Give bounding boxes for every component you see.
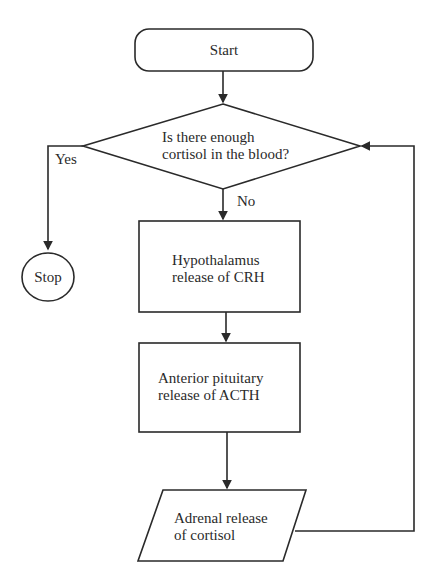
yes-label: Yes xyxy=(55,151,77,168)
step2-text: Anterior pituitary release of ACTH xyxy=(158,370,263,404)
step1-line2: release of CRH xyxy=(172,269,264,286)
step3-text: Adrenal release of cortisol xyxy=(174,510,268,544)
start-label: Start xyxy=(135,42,313,59)
step3-line2: of cortisol xyxy=(174,527,268,544)
decision-line1: Is there enough xyxy=(162,129,289,146)
step2-line2: release of ACTH xyxy=(158,387,263,404)
no-label: No xyxy=(237,193,255,210)
stop-label: Stop xyxy=(22,269,74,286)
step2-line1: Anterior pituitary xyxy=(158,370,263,387)
step1-text: Hypothalamus release of CRH xyxy=(172,252,264,286)
flowchart-canvas xyxy=(0,0,435,588)
arrow-feedback-loop xyxy=(295,146,414,531)
decision-line2: cortisol in the blood? xyxy=(162,146,289,163)
step1-line1: Hypothalamus xyxy=(172,252,264,269)
decision-text: Is there enough cortisol in the blood? xyxy=(162,129,289,163)
step3-line1: Adrenal release xyxy=(174,510,268,527)
